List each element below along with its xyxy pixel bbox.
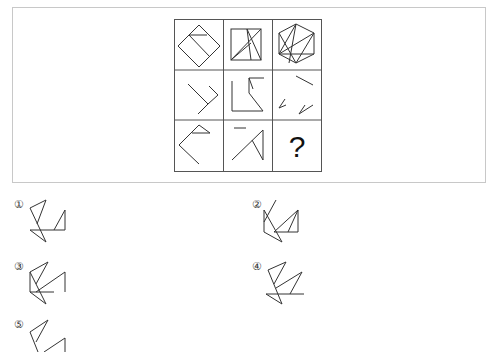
option-3[interactable]: ③ [14,258,74,306]
cell-l-shape [232,78,264,111]
cell-hexagon [279,24,314,63]
cell-scattered [279,76,313,114]
cell-flag-angle [179,125,210,164]
option-2[interactable]: ② [254,196,314,244]
option-4[interactable]: ④ [254,258,314,306]
cell-angled-strokes [188,84,218,114]
question-mark: ? [272,121,322,172]
cell-dash-triangle [232,128,263,160]
option-5[interactable]: ⑤ [14,316,74,352]
option-1[interactable]: ① [14,196,74,244]
cell-diamond [178,25,220,67]
cell-square [231,29,261,60]
